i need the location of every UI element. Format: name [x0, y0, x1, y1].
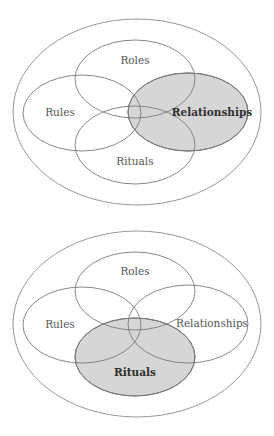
- venn-diagram-figure: Roles Rules Relationships Rituals Roles …: [0, 0, 274, 436]
- venn-diagram-relationships-highlighted: Roles Rules Relationships Rituals: [13, 19, 261, 205]
- label-rituals: Rituals: [116, 155, 153, 167]
- set-rules-ellipse: [23, 75, 141, 151]
- label-roles: Roles: [120, 54, 149, 66]
- venn-diagram-rituals-highlighted: Roles Rules Relationships Rituals: [13, 231, 261, 417]
- label-relationships-highlighted: Relationships: [172, 106, 253, 118]
- label-rituals-highlighted: Rituals: [114, 366, 156, 378]
- label-rules: Rules: [45, 106, 75, 118]
- label-relationships: Relationships: [176, 317, 248, 329]
- label-roles: Roles: [120, 265, 149, 277]
- label-rules: Rules: [45, 318, 75, 330]
